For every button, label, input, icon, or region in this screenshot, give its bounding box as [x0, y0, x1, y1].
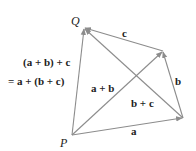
label-b: b — [175, 75, 181, 87]
vector-resultant — [72, 29, 84, 135]
label-c: c — [122, 27, 127, 39]
label-b-plus-c: b + c — [131, 97, 154, 109]
vertex-label-p: P — [59, 136, 68, 150]
label-a-plus-b: a + b — [91, 82, 114, 94]
vector-a — [72, 118, 182, 135]
vector-diagram: Q P c b a a + b b + c (a + b) + c = a + … — [0, 0, 196, 151]
equation-line-1: (a + b) + c — [23, 56, 70, 69]
label-a: a — [131, 125, 137, 137]
vector-a-plus-b — [72, 52, 162, 135]
vertex-label-q: Q — [71, 14, 80, 28]
equation-line-2: = a + (b + c) — [8, 75, 65, 88]
